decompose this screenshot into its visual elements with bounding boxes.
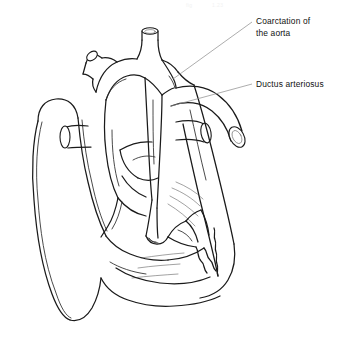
papillary-muscles — [168, 210, 209, 247]
valve-leaflets — [120, 142, 158, 197]
label-ductus-arteriosus: Ductus arteriosus — [256, 79, 324, 89]
left-atrium — [105, 100, 147, 216]
chordae-tendineae — [132, 182, 203, 278]
heart-coarctation-diagram: fig 1.23 — [0, 0, 346, 343]
anatomy-group — [33, 28, 249, 321]
left-ventricle — [101, 236, 220, 306]
ghost-mark: 1.23 — [212, 2, 223, 8]
left-pulmonary-stub — [60, 125, 91, 148]
leader-line-coarctation — [173, 22, 252, 79]
right-ventricle-wall — [183, 85, 235, 298]
ghost-mark: fig — [186, 2, 192, 8]
ghost-marks-group: fig 1.23 — [186, 2, 223, 8]
aortic-arch — [83, 40, 194, 100]
label-ductus-arteriosus-line1: Ductus arteriosus — [256, 79, 324, 89]
leader-line-ductus-arteriosus — [171, 84, 252, 106]
label-coarctation-line1: Coarctation of — [256, 16, 311, 26]
vessel-cut-end — [226, 124, 249, 150]
coarctation-narrowing — [162, 60, 176, 95]
label-coarctation: Coarctation of the aorta — [256, 16, 311, 38]
leader-lines-group — [171, 22, 252, 106]
left-subclavian-artery — [142, 28, 158, 40]
ascending-aorta — [145, 78, 162, 208]
label-coarctation-line2: the aorta — [256, 28, 291, 38]
vessel-cut-end — [60, 126, 70, 148]
atrial-appendage — [101, 198, 122, 237]
brachiocephalic-stub — [83, 49, 102, 74]
